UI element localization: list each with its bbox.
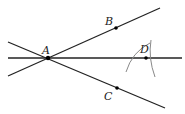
label-b: B — [104, 15, 113, 28]
point-c — [115, 86, 119, 90]
label-d: D — [139, 43, 149, 56]
geometry-diagram: A B C D — [0, 0, 185, 114]
point-d — [144, 56, 148, 60]
lines-group — [8, 8, 182, 108]
label-a: A — [41, 44, 50, 57]
point-b — [114, 26, 118, 30]
labels-group: A B C D — [41, 15, 149, 103]
ray-ab — [8, 8, 160, 76]
label-c: C — [104, 90, 113, 103]
